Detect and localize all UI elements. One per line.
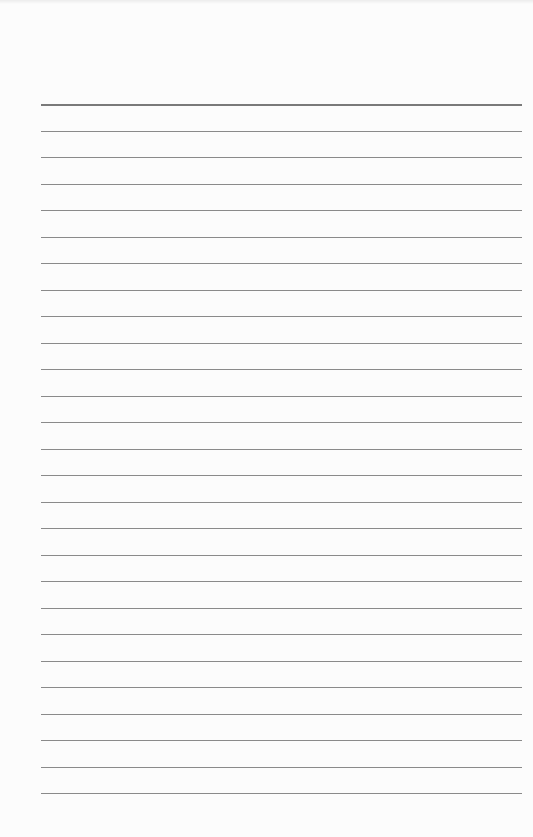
rule-line — [41, 528, 522, 529]
rule-line — [41, 263, 522, 264]
rule-line — [41, 210, 522, 211]
rule-line — [41, 422, 522, 423]
rule-line — [41, 449, 522, 450]
rule-line — [41, 157, 522, 158]
rule-line — [41, 184, 522, 185]
rule-line — [41, 131, 522, 132]
rule-line — [41, 555, 522, 556]
rule-line — [41, 767, 522, 768]
lined-paper-sheet — [0, 0, 533, 837]
rule-line — [41, 661, 522, 662]
rule-line — [41, 634, 522, 635]
rule-line — [41, 740, 522, 741]
rule-line — [41, 290, 522, 291]
header-rule-line — [41, 104, 522, 106]
rule-line — [41, 316, 522, 317]
rule-line — [41, 581, 522, 582]
rule-line — [41, 343, 522, 344]
rule-line — [41, 793, 522, 794]
rule-line — [41, 396, 522, 397]
rule-line — [41, 502, 522, 503]
rule-line — [41, 475, 522, 476]
rule-line — [41, 608, 522, 609]
rule-line — [41, 237, 522, 238]
paper-top-edge — [0, 0, 533, 4]
rule-line — [41, 369, 522, 370]
rule-line — [41, 687, 522, 688]
rule-line — [41, 714, 522, 715]
